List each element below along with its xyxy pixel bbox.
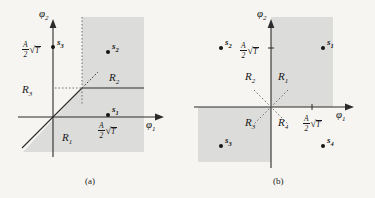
signal-label-s1: s1 xyxy=(112,105,119,116)
radical-sqrt-t: √ T xyxy=(106,126,117,136)
amplitude-annotation-phi1: A 2 √ T xyxy=(98,122,117,139)
phi1-axis-label: φ1 xyxy=(146,119,156,133)
region-label-r1: R1 xyxy=(278,71,288,85)
panel-a-drawing xyxy=(0,0,187,198)
amplitude-annotation-phi2: A 2 √ T xyxy=(22,41,41,58)
shaded-quadrant-lower-left xyxy=(198,107,271,162)
fraction-a-over-2: A 2 xyxy=(98,122,105,139)
signal-label-s3: s3 xyxy=(57,38,64,49)
panel-b: φ1 φ2 R1 R2 R3 R4 s2 s1 s3 s4 A 2 √ T xyxy=(188,0,375,198)
radical-argument: T xyxy=(253,47,258,56)
signal-dot-s2 xyxy=(219,46,223,50)
region-label-r2: R2 xyxy=(245,71,255,85)
amplitude-annotation-phi1: A 2 √ T xyxy=(303,115,322,132)
panel-b-caption: (b) xyxy=(273,176,284,186)
panel-b-drawing xyxy=(188,0,375,198)
fraction-a-over-2: A 2 xyxy=(22,41,29,58)
signal-dot-s4 xyxy=(321,144,325,148)
phi2-axis-label: φ2 xyxy=(39,8,49,22)
signal-label-s2: s2 xyxy=(112,42,119,53)
region-label-r4: R4 xyxy=(278,117,288,131)
phi1-axis-label: φ1 xyxy=(336,109,346,123)
shaded-quadrant-upper-right xyxy=(271,17,333,107)
radical-sqrt-t: √ T xyxy=(248,46,259,56)
signal-label-s3: s3 xyxy=(225,136,232,147)
signal-label-s4: s4 xyxy=(327,136,334,147)
phi2-axis-arrow xyxy=(50,19,57,28)
phi1-axis-arrow xyxy=(345,104,354,111)
fraction-numerator: A xyxy=(98,122,105,130)
radical-argument: T xyxy=(316,120,321,129)
region-label-r1: R1 xyxy=(62,132,72,146)
signal-dot-s1 xyxy=(321,46,325,50)
fraction-denominator: 2 xyxy=(240,52,246,60)
region-label-r3: R3 xyxy=(245,117,255,131)
radical-argument: T xyxy=(111,127,116,136)
signal-dot-s3 xyxy=(51,45,55,49)
panel-a-caption: (a) xyxy=(85,176,95,186)
radical-argument: T xyxy=(35,46,40,55)
panel-a: φ1 φ2 R1 R2 R3 s3 s2 s1 A 2 √ T A xyxy=(0,0,187,198)
shaded-region-r1 xyxy=(23,88,144,152)
signal-label-s1: s1 xyxy=(327,38,334,49)
signal-dot-s1 xyxy=(106,113,110,117)
fraction-denominator: 2 xyxy=(98,132,104,140)
radical-sqrt-t: √ T xyxy=(311,119,322,129)
fraction-denominator: 2 xyxy=(303,125,309,133)
fraction-numerator: A xyxy=(303,115,310,123)
figure-root: φ1 φ2 R1 R2 R3 s3 s2 s1 A 2 √ T A xyxy=(0,0,375,198)
fraction-denominator: 2 xyxy=(22,51,28,59)
radical-sqrt-t: √ T xyxy=(30,45,41,55)
phi1-axis-arrow xyxy=(155,114,164,121)
phi2-axis-label: φ2 xyxy=(257,8,267,22)
signal-label-s2: s2 xyxy=(225,38,232,49)
fraction-a-over-2: A 2 xyxy=(303,115,310,132)
region-label-r3: R3 xyxy=(22,84,32,98)
fraction-a-over-2: A 2 xyxy=(240,42,247,59)
region-label-r2: R2 xyxy=(109,72,119,86)
amplitude-annotation-phi2: A 2 √ T xyxy=(240,42,259,59)
fraction-numerator: A xyxy=(22,41,29,49)
signal-dot-s3 xyxy=(219,144,223,148)
fraction-numerator: A xyxy=(240,42,247,50)
signal-dot-s2 xyxy=(106,50,110,54)
